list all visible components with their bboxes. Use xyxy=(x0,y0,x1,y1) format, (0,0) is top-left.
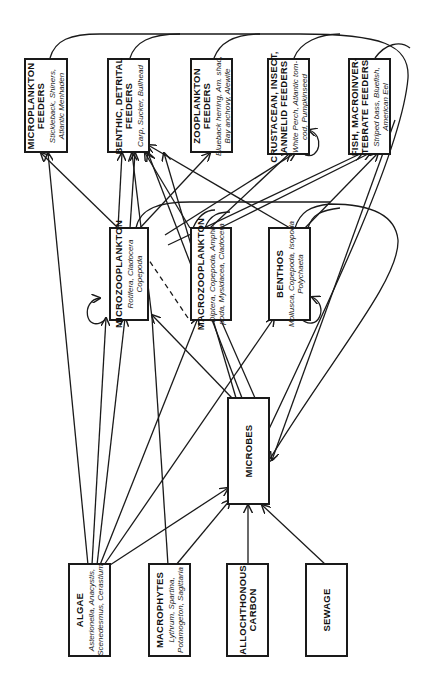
node-examples: Asterionella, Anacystis, xyxy=(87,564,96,656)
node-examples: Lythrum, Spartina, xyxy=(167,567,176,653)
node-title: MACROZOOPLANKTON xyxy=(196,218,206,330)
node-title: ANNELID FEEDERS xyxy=(279,51,289,162)
node-title: BENTHOS xyxy=(275,221,285,327)
node-title: MICROBES xyxy=(244,425,254,478)
node-examples: Atlantic Menhaden xyxy=(57,62,66,149)
node-benthos: BENTHOS Mollusca, Copepoda, Isopoda Poly… xyxy=(268,227,311,321)
node-examples: poda, Mysidacea, Cladocera xyxy=(217,218,226,330)
food-web-diagram: MICROPLANKTON FEEDERS Stickleback, Shine… xyxy=(0,0,440,675)
node-examples: White Perch, Atlantic tom- xyxy=(291,51,300,162)
node-microbes: MICROBES xyxy=(227,397,270,505)
node-title: FEEDERS xyxy=(123,57,133,154)
node-title: FEEDERS xyxy=(202,55,212,155)
node-examples: American Eel xyxy=(381,57,390,155)
node-examples: Potamogeton, Sagittaria xyxy=(176,567,185,653)
self-loop-microzooplankton xyxy=(87,298,105,324)
node-examples: Rotifera, Cladocera xyxy=(126,220,135,328)
node-examples: Bay anchovy, Alewife xyxy=(223,55,232,155)
return-curve-benthic xyxy=(130,34,180,58)
node-examples: Polychaeta xyxy=(296,221,305,327)
node-title: ALGAE xyxy=(75,564,85,656)
node-examples: Striped bass, Bluefish, xyxy=(372,57,381,155)
node-macrozooplankton: MACROZOOPLANKTON Diptera, Copepoda, Amph… xyxy=(190,227,232,321)
node-examples: Stickleback, Shiners, xyxy=(48,62,57,149)
node-title: CRUSTACEAN, INSECT, xyxy=(269,51,279,162)
node-title: SEWAGE xyxy=(322,589,332,632)
return-curve-fish xyxy=(375,44,410,58)
node-crustacean-feeders: CRUSTACEAN, INSECT, ANNELID FEEDERS Whit… xyxy=(267,58,310,155)
node-examples: cod, Pumpkinseed xyxy=(300,51,309,162)
node-allochthonous-carbon: ALLOCHTHONOUS CARBON xyxy=(226,563,269,657)
node-examples: Blueback herring, Am. shad, xyxy=(214,55,223,155)
node-microplankton-feeders: MICROPLANKTON FEEDERS Stickleback, Shine… xyxy=(24,58,68,153)
node-title: CARBON xyxy=(248,565,258,655)
node-title: FEEDERS xyxy=(36,62,46,149)
node-examples: Scenedesmus, Cerastium xyxy=(96,564,105,656)
node-sewage: SEWAGE xyxy=(305,563,348,657)
node-fish-macroinvertebrate-feeders: FISH, MACROINVER- TEBRATE FEEDERS Stripe… xyxy=(348,58,391,155)
node-zooplankton-feeders: ZOOPLANKTON FEEDERS Blueback herring, Am… xyxy=(190,58,233,153)
node-title: ALLOCHTHONOUS xyxy=(238,565,248,655)
node-examples: Carp, Sucker, Bullhead xyxy=(135,57,144,154)
node-title: FISH, MACROINVER- xyxy=(350,57,360,155)
node-macrophytes: MACROPHYTES Lythrum, Spartina, Potamoget… xyxy=(148,563,191,657)
node-title: MICROZOOPLANKTON xyxy=(114,220,124,328)
return-curve-zooplankton xyxy=(214,34,260,58)
node-title: BENTHIC, DETRITAL xyxy=(113,57,123,154)
node-microzooplankton: MICROZOOPLANKTON Rotifera, Cladocera Cop… xyxy=(109,227,149,321)
node-benthic-detrital-feeders: BENTHIC, DETRITAL FEEDERS Carp, Sucker, … xyxy=(107,58,150,153)
node-examples: Mollusca, Copepoda, Isopoda xyxy=(287,221,296,327)
node-algae: ALGAE Asterionella, Anacystis, Scenedesm… xyxy=(68,563,111,657)
node-title: ZOOPLANKTON xyxy=(192,55,202,155)
node-title: TEBRATE FEEDERS xyxy=(360,57,370,155)
node-examples: Diptera, Copepoda, Amphi- xyxy=(208,218,217,330)
return-curve-benthos2 xyxy=(308,208,340,228)
node-examples: Copepoda xyxy=(135,220,144,328)
node-title: MACROPHYTES xyxy=(155,567,165,653)
